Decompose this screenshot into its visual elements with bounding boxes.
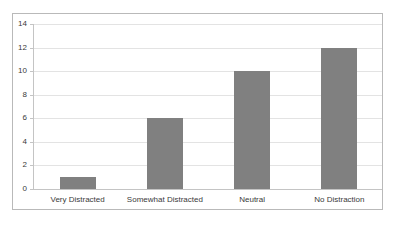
y-axis-label-14: 14 xyxy=(18,20,27,28)
bar-slot-neutral xyxy=(209,24,296,189)
y-axis-label-8: 8 xyxy=(23,91,27,99)
x-axis-labels: Very Distracted Somewhat Distracted Neut… xyxy=(34,190,383,205)
y-axis-label-6: 6 xyxy=(23,114,27,122)
plot-area: 14 12 10 8 6 4 2 0 xyxy=(33,24,382,189)
x-axis-label-somewhat-distracted: Somewhat Distracted xyxy=(121,190,208,205)
chart-frame: 14 12 10 8 6 4 2 0 xyxy=(12,13,383,210)
tick-mark-4 xyxy=(30,142,34,143)
y-axis-label-2: 2 xyxy=(23,161,27,169)
x-axis-label-no-distraction: No Distraction xyxy=(296,190,383,205)
tick-mark-12 xyxy=(30,48,34,49)
x-axis-label-very-distracted: Very Distracted xyxy=(34,190,121,205)
tick-mark-6 xyxy=(30,118,34,119)
bar-no-distraction[interactable] xyxy=(321,48,357,189)
tick-mark-2 xyxy=(30,165,34,166)
tick-mark-10 xyxy=(30,71,34,72)
bar-neutral[interactable] xyxy=(234,71,270,189)
y-axis-label-0: 0 xyxy=(23,185,27,193)
bars-layer xyxy=(35,24,382,189)
bar-slot-no-distraction xyxy=(295,24,382,189)
x-axis-label-neutral: Neutral xyxy=(209,190,296,205)
tick-mark-14 xyxy=(30,24,34,25)
y-axis-label-12: 12 xyxy=(18,44,27,52)
y-axis-label-4: 4 xyxy=(23,138,27,146)
bar-slot-very-distracted xyxy=(35,24,122,189)
bar-slot-somewhat-distracted xyxy=(122,24,209,189)
tick-mark-8 xyxy=(30,95,34,96)
y-axis-label-10: 10 xyxy=(18,67,27,75)
bar-somewhat-distracted[interactable] xyxy=(147,118,183,189)
bar-very-distracted[interactable] xyxy=(60,177,96,189)
